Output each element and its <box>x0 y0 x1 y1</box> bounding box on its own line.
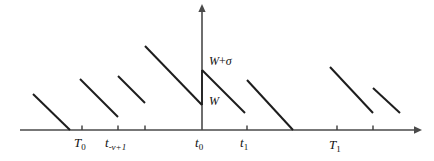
value-label-w-base: W <box>209 94 219 108</box>
value-label-sigma-symbol: σ <box>226 54 232 68</box>
tick-label-T0-sub: 0 <box>81 142 86 152</box>
tick-label-T1-sub: 1 <box>336 144 341 154</box>
sawtooth-segment <box>373 88 400 113</box>
value-label-w-plus-sigma-base: W <box>209 54 219 68</box>
tick-label-T1: T1 <box>329 138 341 154</box>
tick-label-t1-sub: 1 <box>244 142 249 152</box>
tick-label-t0-sub: 0 <box>199 142 204 152</box>
sawtooth-figure: T0 t-ν+1 t0 t1 T1 W+σ W <box>0 0 434 161</box>
x-axis-arrow-icon <box>414 126 422 134</box>
y-axis-arrow-icon <box>198 4 205 12</box>
value-label-w-plus-sigma: W+σ <box>209 55 232 67</box>
tick-label-T0: T0 <box>74 136 86 152</box>
value-label-plus-sign: + <box>219 54 226 68</box>
sawtooth-segment <box>80 79 118 117</box>
figure-canvas <box>0 0 434 161</box>
sawtooth-segment <box>330 67 373 113</box>
sawtooth-segment <box>33 94 70 130</box>
tick-label-t-nu-plus-1-sub: -ν+1 <box>109 142 127 152</box>
sawtooth-segment <box>118 76 145 103</box>
tick-label-t1: t1 <box>240 136 248 152</box>
sawtooth-segment <box>247 80 293 130</box>
tick-label-t0: t0 <box>195 136 203 152</box>
sawtooth-segment <box>145 46 202 105</box>
tick-label-t-nu-plus-1: t-ν+1 <box>105 136 126 152</box>
value-label-w: W <box>209 95 219 107</box>
